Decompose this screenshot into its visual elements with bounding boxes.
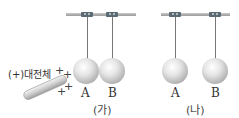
string-b bbox=[215, 17, 216, 59]
support-bar bbox=[66, 13, 136, 16]
charge-plus: + bbox=[63, 69, 72, 80]
ball-a bbox=[73, 58, 99, 84]
panel-ga-caption: (가) bbox=[93, 101, 112, 117]
ball-b-label: B bbox=[108, 87, 117, 99]
ball-b bbox=[202, 58, 228, 84]
string-a bbox=[175, 17, 176, 59]
charge-plus: + bbox=[57, 86, 66, 97]
ball-a-label: A bbox=[81, 87, 90, 99]
string-b bbox=[112, 17, 113, 59]
ball-b-label: B bbox=[211, 87, 220, 99]
ball-b bbox=[99, 58, 125, 84]
ball-a-label: A bbox=[171, 87, 180, 99]
string-a bbox=[87, 17, 88, 59]
ball-a bbox=[162, 58, 188, 84]
panel-na-caption: (나) bbox=[186, 101, 205, 117]
